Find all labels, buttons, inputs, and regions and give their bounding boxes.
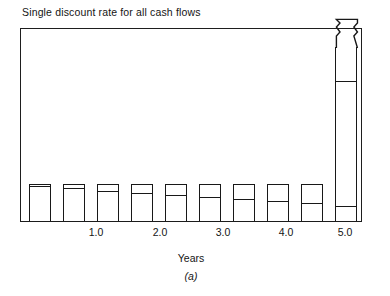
figure-caption: (a) xyxy=(185,270,198,282)
bar xyxy=(97,184,118,221)
chart-title: Single discount rate for all cash flows xyxy=(22,6,201,18)
x-axis-label: Years xyxy=(178,252,204,264)
axis-break-icon xyxy=(335,18,359,48)
bar xyxy=(233,184,254,221)
bar-divider xyxy=(30,186,49,187)
x-tick-label-4: 4.0 xyxy=(279,226,294,238)
bar-divider xyxy=(302,203,321,204)
bar xyxy=(29,184,50,221)
plot-frame xyxy=(20,28,362,222)
bar xyxy=(63,184,84,221)
x-axis-line xyxy=(20,221,362,222)
x-tick-label-2: 2.0 xyxy=(153,226,168,238)
bar-divider xyxy=(336,206,355,207)
bar xyxy=(165,184,186,221)
bar-divider-upper xyxy=(336,81,355,82)
figure-panel: Single discount rate for all cash flows … xyxy=(0,0,390,296)
bar-divider xyxy=(200,197,219,198)
bar-divider xyxy=(64,188,83,189)
x-tick-label-1: 1.0 xyxy=(89,226,104,238)
bar xyxy=(131,184,152,221)
bar xyxy=(267,184,288,221)
x-tick-label-3: 3.0 xyxy=(216,226,231,238)
bar-divider xyxy=(166,195,185,196)
bar-divider xyxy=(268,201,287,202)
x-tick-label-5: 5.0 xyxy=(338,226,353,238)
bar-divider xyxy=(132,193,151,194)
bar-divider xyxy=(234,199,253,200)
bar xyxy=(199,184,220,221)
bar xyxy=(301,184,322,221)
bar-broken xyxy=(335,47,356,221)
bar-divider xyxy=(98,191,117,192)
bars-layer xyxy=(21,29,361,221)
